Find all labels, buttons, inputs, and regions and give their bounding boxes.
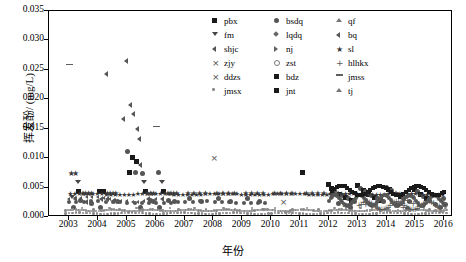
data-point [376, 208, 379, 211]
data-point [435, 210, 438, 213]
data-point: ★ [339, 191, 345, 197]
data-point [250, 212, 253, 215]
data-point [154, 201, 158, 205]
data-point [323, 212, 326, 215]
data-point: ★ [381, 192, 387, 198]
data-point [419, 204, 423, 208]
data-point [103, 209, 106, 212]
data-point [253, 209, 256, 212]
data-point [340, 208, 343, 211]
data-point [391, 192, 395, 196]
legend-item-jmsx[interactable]: jmsx [208, 84, 270, 98]
data-point: ★ [126, 192, 132, 198]
legend-item-jnt[interactable]: jnt [270, 84, 332, 98]
data-point [108, 197, 111, 201]
legend-item-fm[interactable]: fm [208, 28, 270, 42]
data-point [351, 212, 354, 215]
y-tick-label: 0.020 [4, 93, 44, 102]
data-point [141, 212, 144, 215]
data-point [211, 213, 214, 216]
legend-item-bq[interactable]: bq [332, 28, 394, 42]
x-tick-mark [155, 216, 156, 220]
data-point [366, 209, 369, 212]
data-point: ★ [112, 192, 118, 198]
data-point [333, 207, 336, 210]
data-point [105, 196, 109, 202]
data-point [412, 185, 416, 189]
data-point: ★ [420, 192, 426, 198]
data-point [95, 210, 98, 213]
legend-item-qf[interactable]: qf [332, 14, 394, 28]
data-point [354, 212, 357, 215]
data-point [74, 200, 78, 204]
data-point [111, 200, 115, 204]
legend-item-sl[interactable]: ★sl [332, 42, 394, 56]
x-tick-mark [212, 216, 213, 220]
data-point [433, 202, 438, 207]
data-point [222, 212, 225, 215]
data-point: + [436, 203, 444, 210]
triangle-right-icon [270, 42, 286, 56]
data-point [348, 205, 353, 210]
data-point [230, 209, 233, 212]
data-point [437, 197, 441, 201]
data-point [357, 193, 361, 197]
data-point [335, 209, 338, 212]
data-point [117, 212, 120, 215]
data-point [343, 209, 346, 212]
data-point [195, 209, 198, 212]
legend-label: zst [286, 58, 296, 68]
legend-item-zst[interactable]: zst [270, 56, 332, 70]
x-tick-mark [414, 216, 415, 220]
data-point [387, 196, 391, 200]
data-point [359, 193, 363, 197]
legend-item-zjy[interactable]: ×zjy [208, 56, 270, 70]
data-point [294, 209, 297, 212]
data-point [213, 209, 216, 212]
data-point: + [391, 200, 398, 206]
data-point [288, 212, 291, 215]
data-point: ★ [82, 190, 89, 197]
data-point: ★ [315, 192, 321, 198]
data-point: ★ [252, 192, 258, 198]
data-point [113, 198, 116, 202]
data-point: ★ [94, 191, 100, 197]
data-point: + [418, 203, 425, 209]
data-point [423, 207, 426, 210]
data-point [392, 202, 396, 206]
data-point [169, 212, 172, 215]
data-point [176, 212, 179, 215]
square-icon [270, 70, 286, 84]
data-point [108, 207, 111, 210]
data-point [353, 210, 356, 213]
legend-item-hlhkx[interactable]: +hlhkx [332, 56, 394, 70]
data-point [319, 212, 322, 215]
data-point [368, 188, 372, 192]
legend-item-nj[interactable]: nj [270, 42, 332, 56]
legend-item-ddzs[interactable]: ×ddzs [208, 70, 270, 84]
data-point [131, 211, 134, 214]
legend-item-pbx[interactable]: pbx [208, 14, 270, 28]
data-point [85, 209, 88, 212]
legend-row: jmsxjnttj [208, 84, 452, 98]
data-point [402, 197, 406, 201]
data-point [335, 194, 339, 198]
legend-item-tj[interactable]: tj [332, 84, 394, 98]
legend-item-jmss[interactable]: jmss [332, 70, 394, 84]
legend-item-shjc[interactable]: shjc [208, 42, 270, 56]
data-point [193, 207, 196, 210]
data-point: ★ [256, 192, 262, 198]
data-point [421, 212, 424, 215]
legend-item-lqdq[interactable]: lqdq [270, 28, 332, 42]
data-point [182, 209, 185, 212]
data-point [69, 209, 72, 212]
data-point [77, 209, 80, 212]
data-point: ★ [297, 191, 303, 197]
triangle-up-icon [332, 84, 348, 98]
data-point [234, 201, 238, 205]
data-point [270, 212, 273, 215]
legend-item-bsdq[interactable]: bsdq [270, 14, 332, 28]
data-point [161, 209, 164, 212]
legend-label: ddzs [224, 72, 241, 82]
legend-item-bdz[interactable]: bdz [270, 70, 332, 84]
